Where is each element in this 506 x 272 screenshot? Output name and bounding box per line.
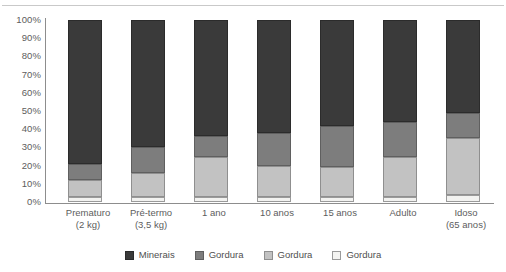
bar-stack	[446, 20, 480, 202]
bar-group-1-ano	[194, 20, 228, 202]
legend-item-gordura-dark[interactable]: Gordura	[195, 250, 244, 260]
segment-gordura-dark	[257, 133, 291, 166]
x-label-line2: (65 anos)	[417, 219, 506, 231]
segment-gordura-light	[257, 197, 291, 202]
y-axis-tick-labels: 100% 90% 80% 70% 60% 50% 40% 30% 20% 10%…	[0, 20, 41, 202]
y-tick-10: 10%	[0, 179, 41, 189]
legend-item-minerais[interactable]: Minerais	[125, 250, 175, 260]
bar-group-prematuro	[68, 20, 102, 202]
segment-gordura-mid	[446, 138, 480, 194]
segment-minerais	[320, 20, 354, 126]
bar-group-adulto	[383, 20, 417, 202]
y-tick-60: 60%	[0, 88, 41, 98]
stacked-bar-chart: 100% 90% 80% 70% 60% 50% 40% 30% 20% 10%…	[0, 0, 506, 272]
segment-minerais	[446, 20, 480, 113]
legend-label: Minerais	[139, 250, 175, 260]
page-top-rule	[2, 5, 504, 6]
segment-gordura-light	[320, 197, 354, 202]
segment-minerais	[257, 20, 291, 133]
plot-area	[46, 20, 492, 202]
segment-gordura-dark	[194, 136, 228, 156]
bar-stack	[68, 20, 102, 202]
y-tick-20: 20%	[0, 161, 41, 171]
segment-minerais	[383, 20, 417, 122]
legend-swatch-icon	[264, 251, 273, 260]
y-tick-90: 90%	[0, 33, 41, 43]
bar-stack	[257, 20, 291, 202]
legend-swatch-icon	[195, 251, 204, 260]
segment-gordura-mid	[257, 166, 291, 197]
x-label-idoso: Idoso (65 anos)	[417, 207, 506, 231]
segment-gordura-light	[68, 197, 102, 202]
chart-legend: Minerais Gordura Gordura Gordura	[0, 250, 506, 260]
y-tick-70: 70%	[0, 70, 41, 80]
segment-gordura-light	[446, 195, 480, 202]
y-tick-80: 80%	[0, 51, 41, 61]
y-tick-40: 40%	[0, 124, 41, 134]
bar-group-10-anos	[257, 20, 291, 202]
x-label-line1: Idoso	[417, 207, 506, 219]
segment-gordura-dark	[68, 164, 102, 180]
segment-gordura-mid	[320, 167, 354, 196]
segment-gordura-mid	[68, 180, 102, 196]
legend-swatch-icon	[125, 251, 134, 260]
segment-gordura-dark	[383, 122, 417, 157]
segment-minerais	[68, 20, 102, 164]
y-tick-100: 100%	[0, 15, 41, 25]
legend-label: Gordura	[278, 250, 313, 260]
y-tick-50: 50%	[0, 106, 41, 116]
segment-gordura-dark	[131, 147, 165, 172]
legend-swatch-icon	[332, 251, 341, 260]
bar-group-15-anos	[320, 20, 354, 202]
segment-minerais	[194, 20, 228, 136]
bar-group-pre-termo	[131, 20, 165, 202]
y-tick-0: 0%	[0, 197, 41, 207]
segment-gordura-dark	[446, 113, 480, 138]
segment-gordura-light	[383, 197, 417, 202]
segment-gordura-mid	[131, 173, 165, 197]
segment-minerais	[131, 20, 165, 147]
segment-gordura-light	[131, 197, 165, 202]
bar-stack	[194, 20, 228, 202]
bar-stack	[383, 20, 417, 202]
y-tick-30: 30%	[0, 142, 41, 152]
legend-item-gordura-mid[interactable]: Gordura	[264, 250, 313, 260]
x-axis-category-labels: Prematuro (2 kg) Pré-termo (3,5 kg) 1 an…	[46, 207, 492, 241]
segment-gordura-light	[194, 197, 228, 202]
bar-stack	[320, 20, 354, 202]
bar-group-idoso	[446, 20, 480, 202]
legend-label: Gordura	[346, 250, 381, 260]
bar-stack	[131, 20, 165, 202]
legend-item-gordura-light[interactable]: Gordura	[332, 250, 381, 260]
segment-gordura-mid	[194, 157, 228, 197]
segment-gordura-dark	[320, 126, 354, 168]
legend-label: Gordura	[209, 250, 244, 260]
segment-gordura-mid	[383, 157, 417, 197]
x-label-line2: (3,5 kg)	[102, 219, 200, 231]
x-axis-line	[45, 203, 494, 204]
